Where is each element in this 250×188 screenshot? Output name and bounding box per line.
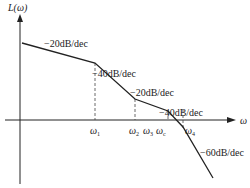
omega2-label: ω2 (129, 125, 139, 137)
slope-label-5: −60dB/dec (200, 147, 245, 158)
y-axis-label: L(ω) (7, 2, 28, 14)
slope-label-3: −20dB/dec (130, 87, 175, 98)
slope-label-2: −40dB/dec (92, 68, 137, 79)
omegac-label: ωc (156, 125, 166, 137)
x-axis-label: ω (240, 115, 247, 126)
y-axis-arrow-icon (17, 14, 23, 22)
omega4-label: ω4 (185, 125, 195, 137)
x-axis-arrow-icon (227, 117, 236, 123)
slope-label-1: −20dB/dec (44, 38, 89, 49)
bode-plot: L(ω) ω −20dB/dec −40dB/dec −20dB/dec −40… (0, 0, 250, 188)
omega3-label: ω3 (143, 125, 153, 137)
omega1-label: ω1 (90, 125, 100, 137)
slope-label-4: −40dB/dec (159, 107, 204, 118)
